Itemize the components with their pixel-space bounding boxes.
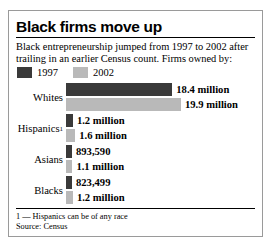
chart-group: Asians893,5901.1 million [16, 145, 255, 174]
category-label-blacks: Blacks [16, 176, 63, 205]
bar-group: 823,4991.2 million [66, 176, 255, 205]
legend-label-1997: 1997 [37, 67, 58, 78]
page-title: Black firms move up [16, 18, 255, 35]
bar-row: 19.9 million [66, 98, 255, 111]
bar-group: 18.4 million19.9 million [66, 83, 255, 112]
bar-value-label: 823,499 [76, 177, 110, 188]
bar-value-label: 18.4 million [176, 84, 229, 95]
legend-item-1997: 1997 [17, 67, 58, 78]
bar-value-label: 1.1 million [76, 161, 124, 172]
bar-value-label: 893,590 [76, 146, 110, 157]
bar-hispanics-2002 [66, 129, 75, 142]
footnote-divider [16, 208, 255, 209]
category-label-hispanics: Hispanics1 [16, 114, 63, 143]
bar-row: 893,590 [66, 145, 255, 158]
title-divider [16, 37, 255, 38]
bar-row: 1.2 million [66, 191, 255, 204]
bar-row: 823,499 [66, 176, 255, 189]
chart-group: Blacks823,4991.2 million [16, 176, 255, 205]
bar-value-label: 1.2 million [77, 115, 125, 126]
chart-legend: 1997 2002 [17, 67, 255, 78]
chart-subtitle: Black entrepreneurship jumped from 1997 … [16, 41, 255, 64]
chart-group: Whites18.4 million19.9 million [16, 83, 255, 112]
bar-row: 18.4 million [66, 83, 255, 96]
bar-asians-1997 [66, 145, 72, 158]
chart-figure: Black firms move up Black entrepreneursh… [8, 10, 263, 237]
bar-asians-2002 [66, 160, 72, 173]
bar-hispanics-1997 [66, 114, 73, 127]
chart-footnote: 1 — Hispanics can be of any race [16, 212, 255, 222]
legend-swatch-2002 [73, 67, 88, 78]
chart-inner: Black firms move up Black entrepreneursh… [9, 11, 262, 231]
bar-blacks-2002 [66, 191, 73, 204]
bar-row: 1.2 million [66, 114, 255, 127]
chart-group: Hispanics11.2 million1.6 million [16, 114, 255, 143]
bar-blacks-1997 [66, 176, 72, 189]
legend-item-2002: 2002 [73, 67, 114, 78]
chart-plot-area: Whites18.4 million19.9 millionHispanics1… [16, 83, 255, 205]
bar-value-label: 19.9 million [185, 99, 238, 110]
category-label-whites: Whites [16, 83, 63, 112]
legend-swatch-1997 [17, 67, 32, 78]
chart-source: Source: Census [16, 222, 255, 232]
category-label-asians: Asians [16, 145, 63, 174]
bar-group: 1.2 million1.6 million [66, 114, 255, 143]
bar-whites-2002 [66, 98, 181, 111]
bar-value-label: 1.6 million [79, 130, 127, 141]
bar-row: 1.1 million [66, 160, 255, 173]
bar-value-label: 1.2 million [77, 192, 125, 203]
bar-group: 893,5901.1 million [66, 145, 255, 174]
bar-whites-1997 [66, 83, 172, 96]
bar-row: 1.6 million [66, 129, 255, 142]
legend-label-2002: 2002 [93, 67, 114, 78]
